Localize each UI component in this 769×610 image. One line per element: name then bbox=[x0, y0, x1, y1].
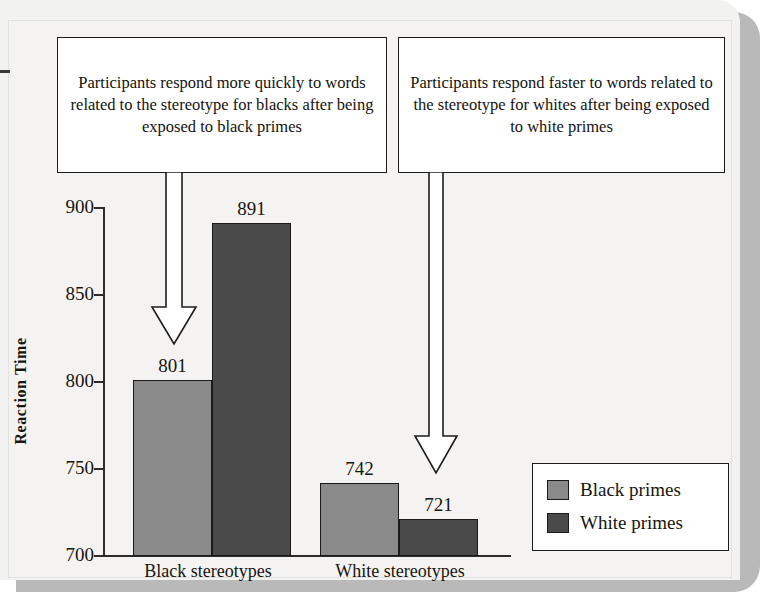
legend-item-black-primes: Black primes bbox=[547, 473, 728, 506]
legend-label-black-primes: Black primes bbox=[580, 480, 681, 499]
bar-black-stereotypes-black-primes bbox=[133, 380, 212, 556]
bar-value-label-721: 721 bbox=[399, 494, 478, 516]
y-tick-label-800: 800 bbox=[38, 370, 94, 392]
y-tick-700 bbox=[94, 555, 104, 557]
figure-container: Participants respond more quickly to wor… bbox=[0, 0, 769, 610]
y-tick-750 bbox=[94, 468, 104, 470]
legend-swatch-white-primes bbox=[547, 513, 569, 533]
y-tick-label-850: 850 bbox=[38, 283, 94, 305]
plot-area: Reaction Time 900 850 800 750 700 801 89… bbox=[0, 0, 740, 580]
bar-value-label-801: 801 bbox=[133, 355, 212, 377]
bar-white-stereotypes-white-primes bbox=[399, 519, 478, 556]
bar-black-stereotypes-white-primes bbox=[212, 223, 291, 556]
y-axis-title: Reaction Time bbox=[12, 306, 30, 476]
y-tick-label-700: 700 bbox=[38, 544, 94, 566]
legend: Black primes White primes bbox=[532, 463, 729, 551]
x-category-label-white-stereotypes: White stereotypes bbox=[305, 561, 495, 582]
y-tick-label-900: 900 bbox=[38, 196, 94, 218]
bar-value-label-891: 891 bbox=[212, 198, 291, 220]
y-tick-900 bbox=[94, 207, 104, 209]
legend-swatch-black-primes bbox=[547, 480, 569, 500]
legend-item-white-primes: White primes bbox=[547, 506, 728, 539]
y-tick-label-750: 750 bbox=[38, 457, 94, 479]
y-tick-850 bbox=[94, 294, 104, 296]
bar-white-stereotypes-black-primes bbox=[320, 483, 399, 556]
legend-label-white-primes: White primes bbox=[580, 513, 683, 532]
y-tick-800 bbox=[94, 381, 104, 383]
bar-value-label-742: 742 bbox=[320, 458, 399, 480]
x-category-label-black-stereotypes: Black stereotypes bbox=[113, 561, 303, 582]
